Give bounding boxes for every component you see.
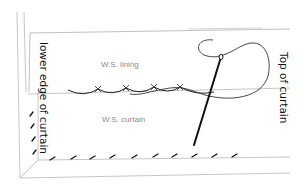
lining-outline	[29, 28, 290, 92]
label-top-of-curtain: Top of curtain	[278, 51, 290, 123]
lining-slip-stitches	[68, 84, 214, 94]
needle-icon	[194, 54, 223, 145]
label-lower-edge: lower edge of curtain	[38, 42, 50, 154]
label-ws-lining: W.S. lining	[101, 60, 139, 69]
sewing-diagram: W.S. lining W.S. curtain lower edge of c…	[0, 0, 306, 188]
thread-loop	[130, 40, 269, 98]
label-ws-curtain: W.S. curtain	[102, 115, 145, 124]
